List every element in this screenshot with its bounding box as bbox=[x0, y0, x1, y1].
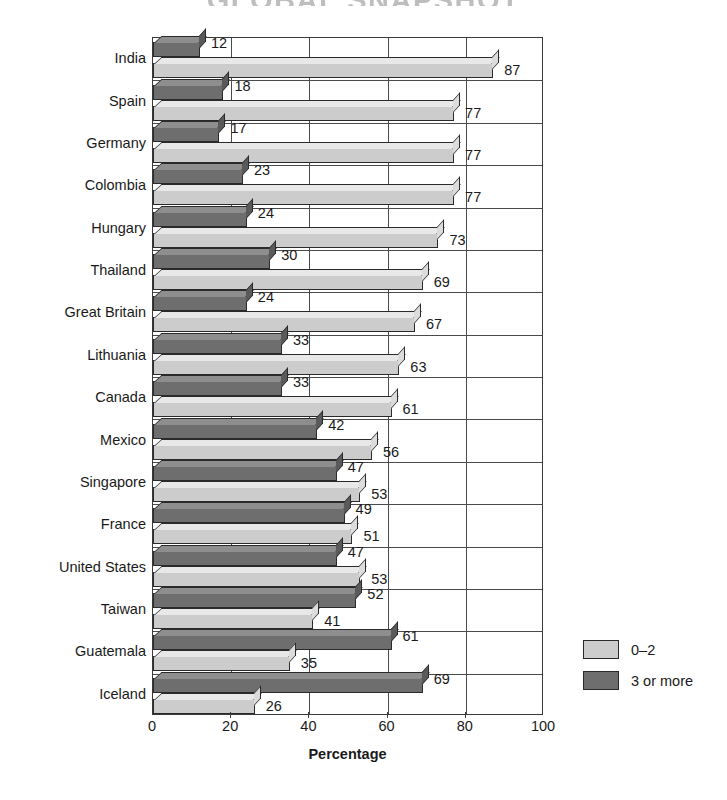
category-label: Iceland bbox=[0, 687, 146, 702]
category-axis-labels: IndiaSpainGermanyColombiaHungaryThailand… bbox=[0, 37, 146, 715]
bar-value-label: 73 bbox=[449, 233, 465, 248]
legend-label: 3 or more bbox=[631, 673, 693, 689]
category-label: Colombia bbox=[0, 178, 146, 193]
category-label: India bbox=[0, 51, 146, 66]
x-tick-label: 0 bbox=[148, 718, 156, 734]
bar-0-2 bbox=[153, 529, 352, 544]
bar-value-label: 77 bbox=[465, 106, 481, 121]
bar-0-2 bbox=[153, 656, 290, 671]
bar-top-face bbox=[154, 121, 226, 128]
bar-top-face bbox=[154, 375, 289, 382]
x-tick-mark bbox=[308, 712, 309, 718]
category-label: Thailand bbox=[0, 263, 146, 278]
bar-value-label: 33 bbox=[293, 333, 309, 348]
bar-value-label: 12 bbox=[211, 36, 227, 51]
bar-side-face bbox=[371, 431, 378, 452]
x-tick-label: 20 bbox=[222, 718, 238, 734]
gridline bbox=[388, 38, 389, 714]
bar-0-2 bbox=[153, 487, 360, 502]
category-label: Mexico bbox=[0, 433, 146, 448]
bar-top-face bbox=[154, 100, 461, 107]
bar-top-face bbox=[154, 587, 363, 594]
chart-title: GLOBAL SNAPSHOT bbox=[0, 0, 727, 6]
bar-0-2 bbox=[153, 572, 360, 587]
bar-value-label: 17 bbox=[230, 121, 246, 136]
bar-side-face bbox=[422, 261, 429, 282]
bar-value-label: 33 bbox=[293, 375, 309, 390]
chart-legend: 0–23 or more bbox=[583, 634, 693, 696]
bar-0-2 bbox=[153, 233, 438, 248]
bar-top-face bbox=[154, 650, 297, 657]
bar-side-face bbox=[414, 304, 421, 325]
bar-side-face bbox=[391, 622, 398, 643]
bar-side-face bbox=[359, 473, 366, 494]
bar-value-label: 56 bbox=[383, 445, 399, 460]
bar-top-face bbox=[154, 523, 359, 530]
category-label: Hungary bbox=[0, 221, 146, 236]
bar-3-or-more bbox=[153, 212, 247, 227]
bar-top-face bbox=[154, 269, 430, 276]
bar-side-face bbox=[359, 558, 366, 579]
bar-0-2 bbox=[153, 614, 313, 629]
bar-value-label: 42 bbox=[328, 418, 344, 433]
x-tick-label: 60 bbox=[379, 718, 395, 734]
bar-top-face bbox=[154, 460, 344, 467]
horizontal-bar-chart: GLOBAL SNAPSHOT IndiaSpainGermanyColombi… bbox=[0, 0, 727, 800]
x-tick-label: 80 bbox=[457, 718, 473, 734]
legend-swatch bbox=[583, 671, 619, 690]
bar-top-face bbox=[154, 57, 500, 64]
legend-label: 0–2 bbox=[631, 642, 655, 658]
bar-3-or-more bbox=[153, 169, 243, 184]
category-label: France bbox=[0, 517, 146, 532]
x-tick-label: 100 bbox=[531, 718, 555, 734]
bar-3-or-more bbox=[153, 339, 282, 354]
bar-3-or-more bbox=[153, 635, 392, 650]
bar-side-face bbox=[422, 664, 429, 685]
legend-item: 3 or more bbox=[583, 665, 693, 696]
bar-0-2 bbox=[153, 148, 454, 163]
bar-0-2 bbox=[153, 63, 493, 78]
bar-value-label: 41 bbox=[324, 614, 340, 629]
bar-3-or-more bbox=[153, 466, 337, 481]
bar-value-label: 61 bbox=[403, 402, 419, 417]
bar-top-face bbox=[154, 79, 230, 86]
bar-value-label: 30 bbox=[281, 248, 297, 263]
bar-3-or-more bbox=[153, 254, 270, 269]
bar-side-face bbox=[391, 388, 398, 409]
category-label: Taiwan bbox=[0, 602, 146, 617]
bar-top-face bbox=[154, 502, 351, 509]
bar-0-2 bbox=[153, 275, 423, 290]
bar-value-label: 47 bbox=[348, 460, 364, 475]
category-label: Germany bbox=[0, 136, 146, 151]
category-label: Singapore bbox=[0, 475, 146, 490]
bar-3-or-more bbox=[153, 296, 247, 311]
bar-side-face bbox=[398, 346, 405, 367]
bar-top-face bbox=[154, 629, 398, 636]
plot-area: 1287187717772377247330692467336333614256… bbox=[152, 37, 543, 715]
x-axis-ticks: 020406080100 bbox=[152, 718, 543, 740]
bar-top-face bbox=[154, 227, 445, 234]
gridline bbox=[466, 38, 467, 714]
bar-top-face bbox=[154, 163, 250, 170]
bar-top-face bbox=[154, 184, 461, 191]
bar-value-label: 47 bbox=[348, 545, 364, 560]
bar-value-label: 69 bbox=[434, 672, 450, 687]
bar-top-face bbox=[154, 545, 344, 552]
bar-side-face bbox=[492, 49, 499, 70]
category-label: Guatemala bbox=[0, 644, 146, 659]
bar-top-face bbox=[154, 333, 289, 340]
bar-top-face bbox=[154, 354, 406, 361]
bar-top-face bbox=[154, 248, 277, 255]
bar-3-or-more bbox=[153, 381, 282, 396]
bar-value-label: 26 bbox=[266, 699, 282, 714]
bar-top-face bbox=[154, 481, 367, 488]
category-label: Great Britain bbox=[0, 305, 146, 320]
bar-value-label: 67 bbox=[426, 317, 442, 332]
bar-0-2 bbox=[153, 699, 255, 714]
bar-top-face bbox=[154, 672, 430, 679]
bar-value-label: 53 bbox=[371, 487, 387, 502]
bar-0-2 bbox=[153, 360, 399, 375]
bar-side-face bbox=[351, 516, 358, 537]
bar-value-label: 52 bbox=[367, 587, 383, 602]
bar-0-2 bbox=[153, 402, 392, 417]
